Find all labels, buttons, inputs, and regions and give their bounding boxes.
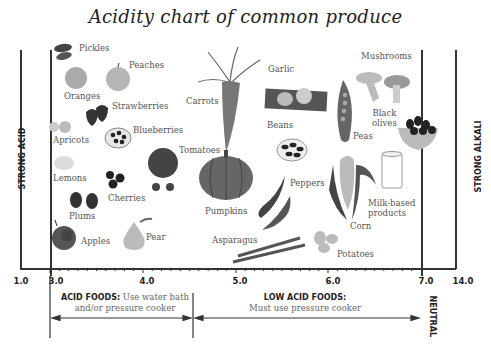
label-milk-line2: products [368, 208, 406, 218]
label-apples: Apples [81, 237, 110, 247]
label-pickles: Pickles [79, 44, 109, 54]
mushrooms-icon [356, 72, 410, 103]
oranges-icon [65, 67, 87, 89]
apples-icon [52, 220, 76, 250]
label-mushrooms: Mushrooms [361, 52, 412, 62]
label-beans: Beans [267, 121, 293, 131]
label-peas: Peas [353, 132, 373, 142]
garlic-icon [265, 88, 328, 112]
label-carrots: Carrots [186, 97, 219, 107]
milk-based-products-icon [382, 152, 402, 189]
label-lemons: Lemons [53, 174, 87, 184]
label-black-olives-line2: olives [372, 118, 397, 128]
label-milk-based-products: Milk-based products [368, 199, 415, 219]
label-black-olives: Black olives [372, 109, 397, 129]
label-oranges: Oranges [64, 92, 100, 102]
pickles-icon [54, 43, 73, 62]
peaches-icon [106, 63, 130, 91]
label-milk-line1: Milk-based [368, 198, 415, 208]
label-potatoes: Potatoes [337, 250, 374, 260]
label-peppers: Peppers [290, 179, 325, 189]
zone-arrows [50, 276, 419, 338]
label-strawberries: Strawberries [112, 102, 168, 112]
pumpkins-icon [199, 150, 253, 200]
label-blueberries: Blueberries [133, 126, 183, 136]
label-peaches: Peaches [129, 61, 164, 71]
blueberries-icon [105, 128, 131, 148]
label-asparagus: Asparagus [212, 236, 257, 246]
axis-ticks [50, 268, 412, 273]
label-pumpkins: Pumpkins [205, 207, 247, 217]
peppers-icon [258, 176, 290, 230]
peas-icon [337, 80, 351, 142]
label-pear: Pear [146, 233, 166, 243]
plums-icon [70, 192, 98, 209]
lemons-icon [54, 156, 74, 170]
cherries-icon [106, 171, 125, 189]
strawberries-icon [86, 105, 108, 126]
label-cherries: Cherries [108, 194, 145, 204]
black-olives-icon [398, 116, 438, 150]
label-corn: Corn [350, 222, 371, 232]
label-plums: Plums [69, 212, 95, 222]
apricots-icon [49, 121, 71, 133]
label-black-olives-line1: Black [372, 108, 396, 118]
label-garlic: Garlic [268, 65, 294, 75]
tomatoes-icon [148, 148, 178, 191]
beans-icon [277, 139, 307, 161]
potatoes-icon [314, 231, 338, 253]
label-tomatoes: Tomatoes [179, 146, 220, 156]
label-apricots: Apricots [53, 136, 89, 146]
